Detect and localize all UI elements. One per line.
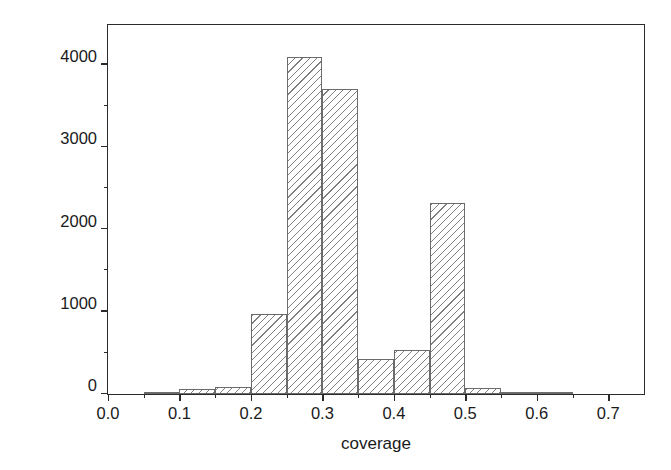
y-axis-tick-label: 0 xyxy=(88,376,97,395)
y-axis-tick xyxy=(101,63,108,64)
plot-area xyxy=(108,25,644,394)
x-axis-tick-label: 0.4 xyxy=(382,404,405,423)
y-axis-tick xyxy=(101,146,108,147)
y-axis-tick-label: 3000 xyxy=(60,129,97,148)
x-axis-tick xyxy=(179,394,180,401)
x-axis-tick xyxy=(394,394,395,401)
histogram-bar xyxy=(537,392,573,394)
y-axis-minor-tick xyxy=(104,105,108,106)
x-axis-tick xyxy=(465,394,466,401)
histogram-bar xyxy=(501,392,537,394)
y-axis-tick-label: 4000 xyxy=(60,46,97,65)
x-axis-tick xyxy=(537,394,538,401)
histogram-bar xyxy=(144,392,180,394)
y-axis-tick xyxy=(101,310,108,311)
x-axis-tick xyxy=(251,394,252,401)
x-axis-tick-label: 0.2 xyxy=(239,404,262,423)
histogram-bar xyxy=(465,388,501,394)
histogram-bar xyxy=(322,89,358,394)
y-axis-tick-label: 1000 xyxy=(60,293,97,312)
plot-frame: 010002000300040000.00.10.20.30.40.50.60.… xyxy=(107,24,645,395)
x-axis-tick-label: 0.3 xyxy=(311,404,334,423)
histogram-bar xyxy=(179,389,215,394)
histogram-bar xyxy=(430,203,466,394)
histogram-bar xyxy=(394,350,430,394)
x-axis-label: coverage xyxy=(107,434,645,454)
x-axis-tick-label: 0.1 xyxy=(168,404,191,423)
y-axis-label: Count xyxy=(0,173,4,218)
histogram-bar xyxy=(287,57,323,394)
y-axis-tick xyxy=(101,228,108,229)
x-axis-minor-tick xyxy=(287,394,288,398)
x-axis-tick xyxy=(608,394,609,401)
histogram-figure: 010002000300040000.00.10.20.30.40.50.60.… xyxy=(0,0,671,470)
x-axis-tick xyxy=(322,394,323,401)
x-axis-tick-label: 0.7 xyxy=(597,404,620,423)
x-axis-tick-label: 0.5 xyxy=(454,404,477,423)
y-axis-minor-tick xyxy=(104,187,108,188)
x-axis-tick-label: 0.0 xyxy=(97,404,120,423)
y-axis-minor-tick xyxy=(104,352,108,353)
y-axis-minor-tick xyxy=(104,269,108,270)
x-axis-minor-tick xyxy=(215,394,216,398)
y-axis-tick-label: 2000 xyxy=(60,211,97,230)
x-axis-minor-tick xyxy=(573,394,574,398)
histogram-bar xyxy=(358,359,394,394)
x-axis-minor-tick xyxy=(430,394,431,398)
y-axis-tick xyxy=(101,393,108,394)
x-axis-minor-tick xyxy=(144,394,145,398)
histogram-bar xyxy=(215,387,251,394)
x-axis-tick xyxy=(108,394,109,401)
histogram-bar xyxy=(251,314,287,394)
x-axis-tick-label: 0.6 xyxy=(525,404,548,423)
x-axis-minor-tick xyxy=(501,394,502,398)
x-axis-minor-tick xyxy=(358,394,359,398)
